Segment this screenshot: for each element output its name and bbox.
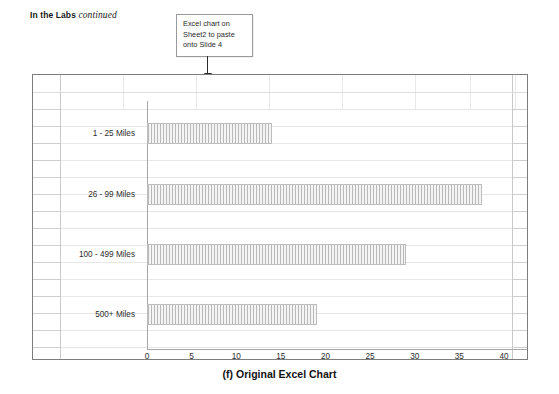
value-axis-tick-label: 40 [490, 352, 518, 360]
running-head-bold: In the Labs [30, 10, 76, 20]
value-axis-tick-label: 20 [312, 352, 340, 360]
bar-chart-plot: 1 - 25 Miles26 - 99 Miles100 - 499 Miles… [33, 75, 528, 360]
category-label: 26 - 99 Miles [33, 184, 141, 205]
value-axis-tick-label: 10 [222, 352, 250, 360]
category-label: 100 - 499 Miles [33, 244, 141, 265]
spreadsheet-frame: 1 - 25 Miles26 - 99 Miles100 - 499 Miles… [32, 74, 528, 360]
figure-caption: (f) Original Excel Chart [0, 368, 559, 380]
bar [147, 123, 272, 144]
value-axis-tick-label: 35 [445, 352, 473, 360]
value-axis-tick-label: 0 [133, 352, 161, 360]
category-label: 1 - 25 Miles [33, 123, 141, 144]
callout-box: Excel chart on Sheet2 to paste onto Slid… [176, 14, 253, 57]
category-label: 500+ Miles [33, 304, 141, 325]
bar [147, 244, 406, 265]
value-axis-tick-label: 15 [267, 352, 295, 360]
category-axis-line [147, 349, 528, 350]
value-axis-tick-label: 5 [178, 352, 206, 360]
value-axis-tick-label: 30 [401, 352, 429, 360]
bar [147, 304, 317, 325]
running-head: In the Labs continued [30, 10, 117, 20]
running-head-italic: continued [78, 10, 116, 20]
value-axis-tick-label: 25 [356, 352, 384, 360]
bar [147, 184, 482, 205]
